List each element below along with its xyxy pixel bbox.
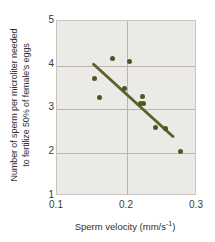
plot-area	[56, 20, 196, 195]
x-axis-title-text: Sperm velocity (mm/s	[75, 221, 166, 232]
x-axis-title-tail: )	[172, 221, 175, 232]
scatter-point	[163, 126, 168, 131]
scatter-point	[153, 125, 158, 130]
chart-figure: Number of sperm per microliter needed to…	[0, 0, 215, 242]
scatter-point	[110, 56, 115, 61]
trendline	[57, 21, 195, 194]
x-tick-label-0-2: 0.2	[111, 200, 141, 210]
x-axis-title: Sperm velocity (mm/s-1)	[40, 221, 210, 232]
scatter-point	[97, 95, 102, 100]
x-tick-label-0-3: 0.3	[181, 200, 211, 210]
x-tick-label-0-1: 0.1	[41, 200, 71, 210]
